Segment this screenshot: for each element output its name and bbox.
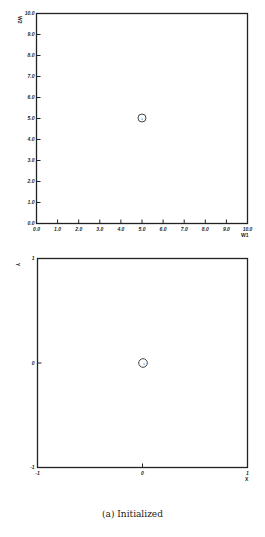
x-tick-label: 1 <box>246 470 249 476</box>
figure: 0.01.02.03.04.05.06.07.08.09.010.0 0.01.… <box>0 0 265 537</box>
x-tick-label: 8.0 <box>202 226 209 232</box>
x-tick-label: 0.0 <box>33 226 40 232</box>
y-tick-label: 2.0 <box>27 178 35 184</box>
y-tick-label: 0 <box>32 360 35 366</box>
y-tick-label: 6.0 <box>28 94 35 100</box>
plot1-x-label: W1 <box>241 232 249 238</box>
plot-w1-w2: 0.01.02.03.04.05.06.07.08.09.010.0 0.01.… <box>17 10 253 238</box>
x-tick-label: 9.0 <box>223 226 230 232</box>
x-tick-label: -1 <box>35 470 40 476</box>
x-tick-label: 10.0 <box>243 226 253 232</box>
y-tick-label: 5.0 <box>28 115 35 121</box>
y-tick-label: 4.0 <box>27 136 35 142</box>
x-tick-label: 7.0 <box>181 226 188 232</box>
x-tick-label: 3.0 <box>96 226 103 232</box>
plot1-y-label: W2 <box>17 16 23 24</box>
figure-caption: (a) Initialized <box>0 509 265 519</box>
plot2-point-label: 1 <box>143 362 145 366</box>
x-tick-label: 2.0 <box>74 226 82 232</box>
x-tick-label: 0 <box>141 470 144 476</box>
plot2-x-label: X <box>245 476 249 482</box>
y-tick-label: 1 <box>32 255 35 261</box>
plot1-y-ticks: 0.01.02.03.04.05.06.07.08.09.010.0 <box>25 10 41 226</box>
x-tick-label: 5.0 <box>139 226 146 232</box>
y-tick-label: -1 <box>30 464 35 470</box>
plot1-x-ticks: 0.01.02.03.04.05.06.07.08.09.010.0 <box>33 220 253 232</box>
plot1-point-label: 1 <box>141 117 143 121</box>
y-tick-label: 3.0 <box>28 157 35 163</box>
y-tick-label: 7.0 <box>28 73 35 79</box>
x-tick-label: 1.0 <box>54 226 61 232</box>
y-tick-label: 8.0 <box>28 52 35 58</box>
plot2-y-label: Y <box>15 263 21 267</box>
plot-x-y: -101-101 Y X 1 <box>15 255 249 482</box>
y-tick-label: 10.0 <box>25 10 35 16</box>
x-tick-label: 4.0 <box>116 226 124 232</box>
y-tick-label: 9.0 <box>28 31 35 37</box>
x-tick-label: 6.0 <box>160 226 167 232</box>
y-tick-label: 1.0 <box>28 199 35 205</box>
